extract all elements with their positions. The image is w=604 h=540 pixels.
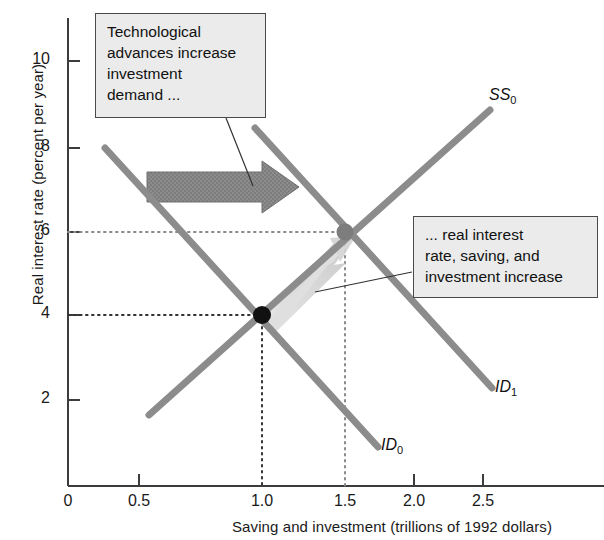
y-axis-ticks (68, 61, 80, 400)
callout-equilibrium-increase: ... real interest rate, saving, and inve… (413, 216, 598, 298)
x-axis-title: Saving and investment (trillions of 1992… (232, 518, 552, 535)
callout-line: rate, saving, and (425, 245, 588, 266)
callout-line: investment (107, 63, 256, 84)
y-tick-label-6: 6 (24, 221, 50, 239)
equilibrium-point-initial (253, 306, 271, 324)
x-tick-label-1-5: 1.5 (322, 492, 368, 510)
demand-shift-arrow (147, 161, 299, 213)
x-tick-label-1-0: 1.0 (239, 492, 285, 510)
y-tick-label-2: 2 (24, 389, 50, 407)
y-tick-label-10: 10 (24, 50, 50, 68)
curve-label-id0: ID0 (381, 436, 403, 456)
equilibrium-point-new (337, 224, 354, 241)
callout-line: advances increase (107, 42, 256, 63)
callout-technological-advances: Technological advances increase investme… (95, 13, 266, 118)
figure-root: Real interest rate (percent per year) Sa… (0, 0, 604, 540)
x-tick-label-2-0: 2.0 (391, 492, 437, 510)
curve-label-id1: ID1 (495, 378, 517, 398)
curve-label-ss0: SS0 (489, 86, 516, 106)
x-tick-label-2-5: 2.5 (460, 492, 506, 510)
curve-label-id1-subscript: 1 (511, 386, 517, 398)
curve-label-id1-text: ID (495, 378, 511, 395)
callout-line: demand ... (107, 84, 256, 105)
curve-label-ss0-subscript: 0 (510, 94, 516, 106)
callout-line: investment increase (425, 266, 588, 287)
x-tick-label-0-5: 0.5 (116, 492, 162, 510)
y-tick-label-4: 4 (24, 304, 50, 322)
y-axis-title: Real interest rate (percent per year) (29, 60, 46, 310)
curve-label-id0-subscript: 0 (397, 444, 403, 456)
callout-line: Technological (107, 21, 256, 42)
curve-label-ss0-text: SS (489, 86, 510, 103)
equilibrium-move-arrow (266, 236, 356, 332)
y-tick-label-8: 8 (24, 137, 50, 155)
curve-label-id0-text: ID (381, 436, 397, 453)
x-axis-ticks (139, 474, 483, 486)
callout-line: ... real interest (425, 224, 588, 245)
x-tick-label-0: 0 (45, 492, 91, 510)
